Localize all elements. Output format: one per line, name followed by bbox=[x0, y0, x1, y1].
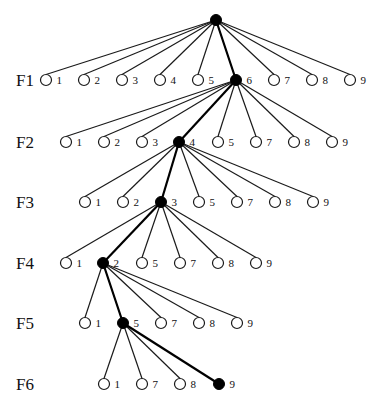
node-label: 5 bbox=[209, 74, 215, 86]
tree-edge bbox=[236, 80, 332, 137]
node-label: 8 bbox=[323, 74, 329, 86]
open-node bbox=[79, 75, 90, 86]
open-node bbox=[137, 137, 148, 148]
node-label: 5 bbox=[210, 196, 216, 208]
path-edge bbox=[103, 202, 161, 263]
open-node bbox=[156, 318, 167, 329]
node-label: 5 bbox=[134, 317, 140, 329]
tree-edge bbox=[123, 323, 142, 379]
node-label: 3 bbox=[153, 136, 159, 148]
tree-edge bbox=[142, 80, 236, 137]
root-node bbox=[211, 15, 222, 26]
node-label: 5 bbox=[229, 136, 235, 148]
node-label: 7 bbox=[191, 257, 197, 269]
open-node bbox=[213, 258, 224, 269]
tree-edge bbox=[216, 20, 350, 75]
tree-edge bbox=[179, 142, 275, 197]
open-node bbox=[41, 75, 52, 86]
node-label: 3 bbox=[172, 196, 178, 208]
node-label: 4 bbox=[190, 136, 196, 148]
node-label: 8 bbox=[210, 317, 216, 329]
open-node bbox=[345, 75, 356, 86]
tree-edge bbox=[161, 202, 256, 258]
selected-node bbox=[98, 258, 109, 269]
node-label: 5 bbox=[153, 257, 159, 269]
node-label: 9 bbox=[267, 257, 273, 269]
open-node bbox=[155, 75, 166, 86]
node-label: 9 bbox=[361, 74, 367, 86]
node-label: 9 bbox=[230, 378, 236, 390]
open-node bbox=[251, 258, 262, 269]
open-node bbox=[213, 137, 224, 148]
node-label: 1 bbox=[77, 257, 83, 269]
level-label-f1: F1 bbox=[16, 71, 34, 90]
open-node bbox=[175, 258, 186, 269]
open-node bbox=[232, 197, 243, 208]
open-node bbox=[99, 137, 110, 148]
tree-edge bbox=[236, 80, 294, 137]
open-node bbox=[194, 197, 205, 208]
open-node bbox=[80, 197, 91, 208]
tree-edge bbox=[104, 323, 123, 379]
tree-edge bbox=[104, 80, 236, 137]
tree-labels: F1123456789F212345789F31235789F4125789F5… bbox=[16, 71, 367, 394]
selected-node bbox=[174, 137, 185, 148]
level-label-f3: F3 bbox=[16, 193, 34, 212]
tree-nodes bbox=[41, 15, 356, 390]
node-label: 7 bbox=[153, 378, 159, 390]
open-node bbox=[307, 75, 318, 86]
node-label: 6 bbox=[247, 74, 253, 86]
selected-node bbox=[156, 197, 167, 208]
node-label: 8 bbox=[229, 257, 235, 269]
tree-edge bbox=[236, 80, 256, 137]
tree-edge bbox=[123, 323, 180, 379]
node-label: 1 bbox=[57, 74, 63, 86]
node-label: 2 bbox=[114, 257, 120, 269]
open-node bbox=[193, 75, 204, 86]
node-label: 8 bbox=[191, 378, 197, 390]
path-edge bbox=[123, 323, 219, 384]
open-node bbox=[137, 379, 148, 390]
node-label: 7 bbox=[285, 74, 291, 86]
tree-edge bbox=[46, 20, 216, 75]
node-label: 8 bbox=[286, 196, 292, 208]
open-node bbox=[117, 75, 128, 86]
selected-node bbox=[118, 318, 129, 329]
node-label: 4 bbox=[171, 74, 177, 86]
tree-edge bbox=[179, 142, 237, 197]
open-node bbox=[251, 137, 262, 148]
node-label: 7 bbox=[172, 317, 178, 329]
node-label: 2 bbox=[95, 74, 101, 86]
open-node bbox=[327, 137, 338, 148]
tree-edge bbox=[84, 20, 216, 75]
tree-edge bbox=[179, 142, 313, 197]
tree-edge bbox=[142, 202, 161, 258]
node-label: 9 bbox=[248, 317, 254, 329]
open-node bbox=[80, 318, 91, 329]
tree-edge bbox=[85, 263, 103, 318]
node-label: 7 bbox=[267, 136, 273, 148]
open-node bbox=[308, 197, 319, 208]
tree-edge bbox=[103, 263, 237, 318]
node-label: 3 bbox=[133, 74, 139, 86]
level-label-f5: F5 bbox=[16, 314, 34, 333]
node-label: 2 bbox=[115, 136, 121, 148]
open-node bbox=[61, 137, 72, 148]
open-node bbox=[289, 137, 300, 148]
tree-edge bbox=[66, 202, 161, 258]
level-label-f6: F6 bbox=[16, 375, 34, 394]
node-label: 8 bbox=[305, 136, 311, 148]
open-node bbox=[61, 258, 72, 269]
open-node bbox=[232, 318, 243, 329]
node-label: 9 bbox=[343, 136, 349, 148]
open-node bbox=[269, 75, 280, 86]
node-label: 2 bbox=[134, 196, 140, 208]
node-label: 9 bbox=[324, 196, 330, 208]
open-node bbox=[175, 379, 186, 390]
tree-edge bbox=[179, 142, 199, 197]
node-label: 7 bbox=[248, 196, 254, 208]
open-node bbox=[118, 197, 129, 208]
selected-node bbox=[231, 75, 242, 86]
level-label-f4: F4 bbox=[16, 254, 34, 273]
search-tree-diagram: F1123456789F212345789F31235789F4125789F5… bbox=[0, 0, 381, 410]
